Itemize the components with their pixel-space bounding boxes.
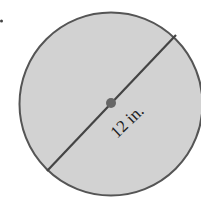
center-point xyxy=(106,98,116,108)
stray-dot xyxy=(0,20,3,23)
circle-diagram: 12 in. xyxy=(0,0,201,198)
